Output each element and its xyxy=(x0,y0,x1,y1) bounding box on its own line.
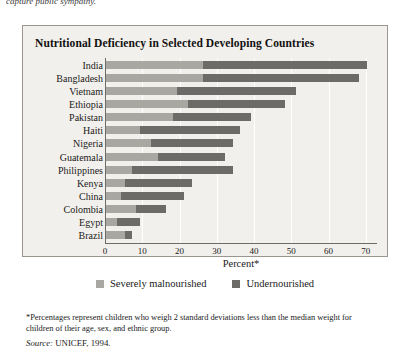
x-tick-label: 50 xyxy=(287,246,296,256)
bar-segment-severely-malnourished xyxy=(106,166,132,174)
y-tick-label: Ethiopia xyxy=(69,100,103,110)
y-tick-label: Nigeria xyxy=(73,139,103,149)
x-axis-line xyxy=(105,243,377,244)
bar-segment-severely-malnourished xyxy=(106,218,117,226)
bar-segment-undernourished xyxy=(203,74,359,82)
source-label: Source: xyxy=(26,338,53,348)
x-tick-label: 60 xyxy=(324,246,333,256)
bar-row xyxy=(106,192,184,200)
x-axis-ticks: 010203040506070 xyxy=(105,246,377,258)
bar-segment-undernourished xyxy=(203,61,367,69)
y-tick-label: Vietnam xyxy=(69,87,103,97)
bar-row xyxy=(106,61,367,69)
bar-segment-severely-malnourished xyxy=(106,205,136,213)
x-tick-label: 20 xyxy=(175,246,184,256)
bar-segment-severely-malnourished xyxy=(106,139,151,147)
bar-segment-severely-malnourished xyxy=(106,74,203,82)
y-tick-label: Philippines xyxy=(58,166,103,176)
y-tick-label: Guatemala xyxy=(60,153,103,163)
bar-row xyxy=(106,126,240,134)
bar-segment-undernourished xyxy=(125,231,132,239)
bar-row xyxy=(106,231,132,239)
legend-swatch-icon xyxy=(232,280,240,288)
y-tick-label: Kenya xyxy=(77,179,103,189)
bar-segment-severely-malnourished xyxy=(106,126,140,134)
x-tick-label: 70 xyxy=(361,246,370,256)
x-axis-title: Percent* xyxy=(105,258,377,269)
bar-row xyxy=(106,153,225,161)
chart-legend: Severely malnourished Undernourished xyxy=(22,278,388,289)
source-text: UNICEF, 1994. xyxy=(55,338,110,348)
bar-segment-undernourished xyxy=(158,153,225,161)
bar-segment-undernourished xyxy=(136,205,166,213)
legend-swatch-icon xyxy=(96,280,104,288)
legend-label: Severely malnourished xyxy=(110,278,207,289)
bar-segment-undernourished xyxy=(173,113,251,121)
cut-body-text-line: capture public sympathy. xyxy=(6,0,156,7)
y-tick-label: Pakistan xyxy=(69,113,103,123)
chart-footnote: *Percentages represent children who weig… xyxy=(26,313,366,334)
bar-row xyxy=(106,166,233,174)
bar-row xyxy=(106,113,251,121)
chart-figure: Nutritional Deficiency in Selected Devel… xyxy=(22,25,388,257)
x-tick-label: 0 xyxy=(103,246,108,256)
x-tick-label: 40 xyxy=(250,246,259,256)
chart-source: Source: UNICEF, 1994. xyxy=(26,338,366,348)
bar-segment-undernourished xyxy=(132,166,233,174)
y-tick-label: Colombia xyxy=(64,205,103,215)
y-tick-label: Bangladesh xyxy=(56,74,103,84)
bar-segment-undernourished xyxy=(151,139,233,147)
bar-segment-undernourished xyxy=(121,192,184,200)
bar-segment-severely-malnourished xyxy=(106,231,125,239)
bar-segment-undernourished xyxy=(117,218,139,226)
x-tick-label: 10 xyxy=(138,246,147,256)
x-tick-label: 30 xyxy=(212,246,221,256)
bar-segment-severely-malnourished xyxy=(106,61,203,69)
legend-item-severely-malnourished: Severely malnourished xyxy=(96,278,207,289)
bar-segment-severely-malnourished xyxy=(106,153,158,161)
y-tick-label: India xyxy=(82,61,103,71)
y-axis-labels: IndiaBangladeshVietnamEthiopiaPakistanHa… xyxy=(47,58,103,244)
bar-segment-severely-malnourished xyxy=(106,113,173,121)
bar-segment-undernourished xyxy=(188,100,285,108)
bar-segment-undernourished xyxy=(177,87,296,95)
bar-row xyxy=(106,179,192,187)
bar-row xyxy=(106,74,359,82)
bar-row xyxy=(106,205,166,213)
legend-item-undernourished: Undernourished xyxy=(232,278,314,289)
bar-row xyxy=(106,139,233,147)
bar-segment-severely-malnourished xyxy=(106,87,177,95)
bar-segment-undernourished xyxy=(140,126,241,134)
bar-segment-severely-malnourished xyxy=(106,100,188,108)
cut-body-text: capture public sympathy. xyxy=(6,0,156,9)
bar-row xyxy=(106,218,140,226)
chart-title: Nutritional Deficiency in Selected Devel… xyxy=(35,37,314,49)
y-tick-label: Brazil xyxy=(79,231,103,241)
y-tick-label: Egypt xyxy=(79,218,103,228)
bar-rows xyxy=(106,58,377,243)
bar-segment-severely-malnourished xyxy=(106,192,121,200)
figure-page: capture public sympathy. Nutritional Def… xyxy=(0,0,410,356)
y-tick-label: China xyxy=(79,192,103,202)
y-tick-label: Haiti xyxy=(83,126,103,136)
bar-segment-undernourished xyxy=(125,179,192,187)
bar-segment-severely-malnourished xyxy=(106,179,125,187)
bar-row xyxy=(106,100,285,108)
plot-area xyxy=(105,58,377,244)
legend-label: Undernourished xyxy=(246,278,314,289)
bar-row xyxy=(106,87,296,95)
